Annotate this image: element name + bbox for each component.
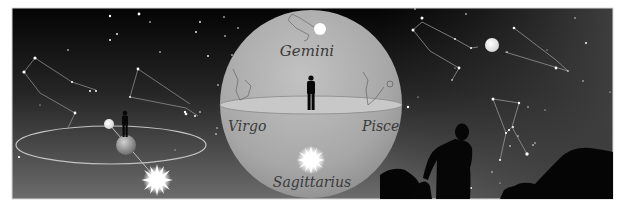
- sphere-moon: [314, 23, 326, 35]
- full-moon: [485, 38, 499, 52]
- label-sagittarius: Sagittarius: [273, 174, 351, 190]
- earth: [116, 135, 136, 155]
- illustration-canvas: Gemini Virgo Pisces Sagittarius: [0, 0, 623, 208]
- label-gemini: Gemini: [280, 42, 335, 60]
- label-virgo: Virgo: [228, 118, 266, 134]
- horizon-plane: [220, 96, 402, 114]
- label-pisces: Pisces: [361, 118, 406, 134]
- sphere-sun: [297, 146, 325, 174]
- moon: [104, 119, 114, 129]
- celestial-sphere-illustration: Gemini Virgo Pisces Sagittarius: [0, 0, 623, 208]
